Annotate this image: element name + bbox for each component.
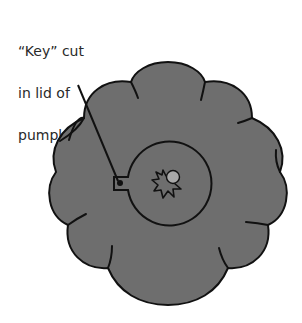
pumpkin-diagram (0, 0, 302, 323)
